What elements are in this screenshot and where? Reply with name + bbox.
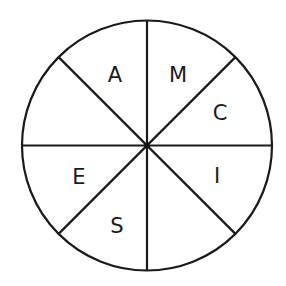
sector-letter-e: E bbox=[72, 165, 85, 189]
sector-letter-s: S bbox=[110, 214, 123, 238]
sector-letter-m: M bbox=[169, 63, 187, 87]
center-point bbox=[144, 143, 149, 148]
sector-letter-a: A bbox=[108, 63, 123, 87]
sector-letter-c: C bbox=[213, 101, 228, 125]
letter-wheel-diagram: A M C I S E bbox=[0, 0, 286, 286]
sector-letter-i: I bbox=[214, 164, 220, 188]
